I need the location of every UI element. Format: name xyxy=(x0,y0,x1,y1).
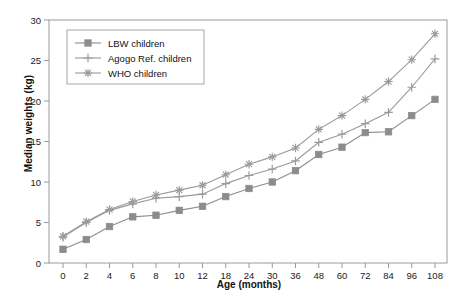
y-tick-label: 15 xyxy=(30,136,41,147)
data-point-asterisk xyxy=(268,153,276,161)
y-tick-label: 20 xyxy=(30,96,41,107)
legend-layer: LBW childrenAgogo Ref. childrenWHO child… xyxy=(67,30,204,84)
data-point-square xyxy=(83,236,89,242)
legend-label: WHO children xyxy=(108,68,167,79)
data-point-asterisk xyxy=(315,125,323,133)
y-tick-label: 5 xyxy=(36,217,41,228)
x-tick-label: 96 xyxy=(406,270,417,281)
data-point-square xyxy=(385,129,391,135)
data-point-asterisk xyxy=(105,205,113,213)
data-point-square xyxy=(176,207,182,213)
data-point-asterisk xyxy=(222,171,230,179)
y-tick-label: 25 xyxy=(30,55,41,66)
data-point-square xyxy=(60,246,66,252)
chart-container: Median weights (kg) Age (months) 0510152… xyxy=(0,0,467,299)
data-point-asterisk xyxy=(129,197,137,205)
plot-area: 0510152025300246810121824303648607284961… xyxy=(0,0,467,299)
data-point-asterisk xyxy=(431,30,439,38)
y-tick-label: 0 xyxy=(36,258,41,269)
data-point-square xyxy=(246,185,252,191)
data-point-asterisk xyxy=(175,186,183,194)
data-point-square xyxy=(153,212,159,218)
data-point-square xyxy=(292,167,298,173)
data-point-square xyxy=(199,203,205,209)
data-point-square xyxy=(269,179,275,185)
data-point-square xyxy=(85,40,91,46)
x-tick-label: 60 xyxy=(337,270,348,281)
data-point-asterisk xyxy=(59,232,67,240)
data-point-square xyxy=(223,193,229,199)
legend-label: Agogo Ref. children xyxy=(108,53,191,64)
data-point-asterisk xyxy=(245,160,253,168)
x-tick-label: 6 xyxy=(130,270,135,281)
data-point-plus xyxy=(198,190,207,199)
data-point-asterisk xyxy=(361,95,369,103)
x-tick-label: 24 xyxy=(244,270,255,281)
data-point-asterisk xyxy=(291,144,299,152)
y-tick-label: 10 xyxy=(30,177,41,188)
data-point-asterisk xyxy=(384,77,392,85)
legend-label: LBW children xyxy=(108,38,165,49)
y-tick-label: 30 xyxy=(30,15,41,26)
x-tick-label: 2 xyxy=(84,270,89,281)
x-tick-label: 8 xyxy=(153,270,158,281)
data-point-asterisk xyxy=(152,191,160,199)
data-point-plus xyxy=(221,179,230,188)
data-point-asterisk xyxy=(408,55,416,63)
x-tick-label: 0 xyxy=(60,270,65,281)
x-tick-label: 48 xyxy=(313,270,324,281)
x-tick-label: 10 xyxy=(174,270,185,281)
data-point-plus xyxy=(245,171,254,180)
data-point-asterisk xyxy=(84,69,92,77)
data-point-plus xyxy=(268,165,277,174)
data-point-plus xyxy=(361,119,370,128)
data-point-square xyxy=(339,144,345,150)
x-tick-label: 108 xyxy=(427,270,443,281)
data-point-square xyxy=(130,214,136,220)
x-tick-label: 18 xyxy=(220,270,231,281)
data-point-asterisk xyxy=(198,181,206,189)
series-line xyxy=(63,59,435,237)
data-point-plus xyxy=(338,130,347,139)
x-tick-label: 84 xyxy=(383,270,394,281)
data-point-square xyxy=(362,129,368,135)
data-point-asterisk xyxy=(338,111,346,119)
x-tick-label: 36 xyxy=(290,270,301,281)
data-point-asterisk xyxy=(82,217,90,225)
x-tick-label: 12 xyxy=(197,270,208,281)
data-point-square xyxy=(432,96,438,102)
x-tick-label: 4 xyxy=(107,270,112,281)
x-tick-label: 72 xyxy=(360,270,371,281)
data-point-square xyxy=(316,151,322,157)
data-point-square xyxy=(106,223,112,229)
data-point-square xyxy=(409,112,415,118)
x-tick-label: 30 xyxy=(267,270,278,281)
